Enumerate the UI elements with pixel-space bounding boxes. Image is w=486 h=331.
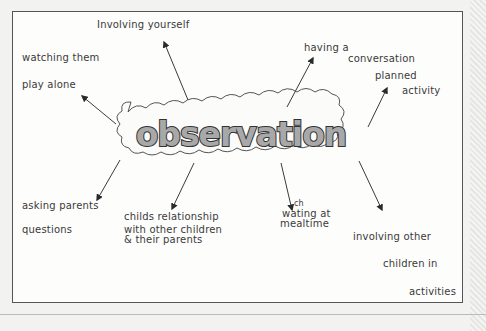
branch-line: planned (375, 70, 440, 81)
branch-watching-mealtime: ch wating at mealtime (282, 199, 331, 229)
branch-line: questions (22, 224, 99, 235)
branch-planned-activity: planned activity (375, 70, 440, 96)
branch-line: conversation (348, 53, 415, 64)
branch-asking-parents-questions: asking parents questions (22, 200, 99, 235)
branch-line: Involving yourself (97, 19, 189, 30)
central-node-title: observation (136, 115, 347, 154)
arrow-play-alone (82, 96, 116, 124)
branch-line: having a (304, 42, 415, 53)
branch-having-conversation: having a conversation (304, 42, 415, 64)
branch-watching-play-alone: watching them play alone (22, 52, 99, 90)
branch-line: children in (383, 258, 456, 269)
arrow-involving-other-children (359, 161, 382, 210)
branch-line: activity (402, 85, 440, 96)
branch-line: watching them (22, 52, 99, 63)
branch-line: mealtime (280, 219, 331, 229)
branch-line: childs relationship (124, 212, 222, 222)
branch-involving-other-children: involving other children in activities (353, 231, 456, 297)
branch-line: play alone (22, 79, 99, 90)
branch-line: asking parents (22, 200, 99, 211)
arrow-involving-yourself (164, 42, 188, 100)
arrow-childs-relationship (172, 163, 194, 209)
branch-line: & their parents (124, 235, 222, 245)
branch-involving-yourself: Involving yourself (97, 19, 189, 30)
arrow-asking-parents (97, 160, 120, 200)
branch-line: activities (409, 286, 456, 297)
branch-line: involving other (353, 231, 456, 242)
branch-childs-relationship: childs relationship with other children … (124, 212, 222, 245)
